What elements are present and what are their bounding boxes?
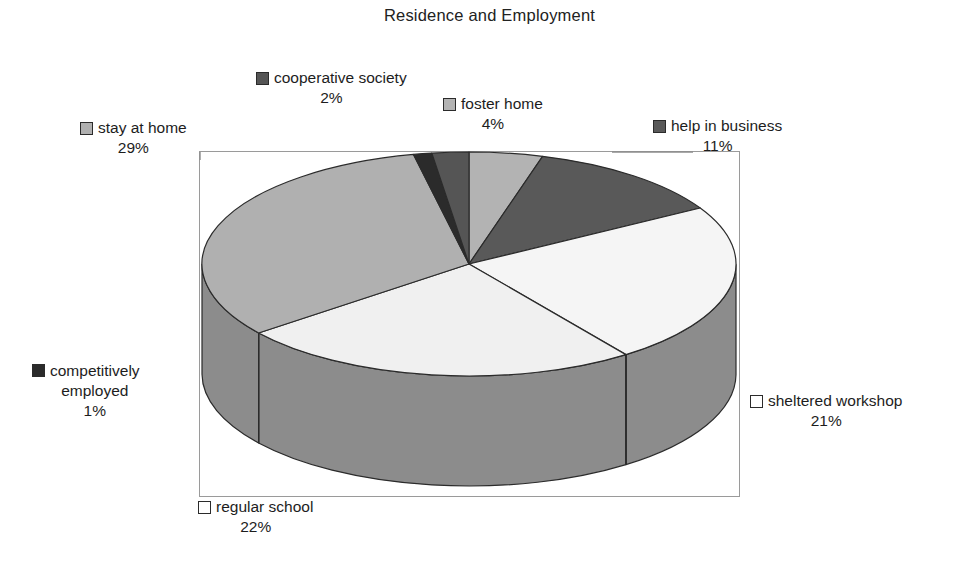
slice-label-text: sheltered workshop [768, 391, 902, 411]
slice-label-regular-school: regular school 22% [198, 497, 313, 537]
slice-label-text: cooperative society [274, 68, 407, 88]
pie-chart-graphic [0, 0, 979, 568]
slice-label-text: foster home [461, 94, 543, 114]
chart-canvas: Residence and Employment cooperative soc… [0, 0, 979, 568]
slice-label-help-in-business: help in business 11% [653, 116, 782, 156]
slice-percent: 1% [84, 401, 106, 421]
slice-label-text-line2: employed [61, 381, 128, 401]
slice-percent: 22% [198, 517, 319, 537]
slice-label-text-line1: competitively [50, 361, 140, 381]
slice-label-text: regular school [216, 497, 313, 517]
swatch-sheltered-workshop [750, 395, 763, 408]
slice-percent: 4% [443, 114, 553, 134]
swatch-help-in-business [653, 120, 666, 133]
swatch-foster-home [443, 98, 456, 111]
slice-label-cooperative-society: cooperative society 2% [256, 68, 407, 108]
slice-label-foster-home: foster home 4% [443, 94, 543, 134]
slice-percent: 29% [80, 138, 221, 158]
swatch-cooperative-society [256, 72, 269, 85]
slice-label-text: stay at home [98, 118, 187, 138]
slice-percent: 11% [653, 136, 842, 156]
swatch-regular-school [198, 501, 211, 514]
pie-top-faces [202, 152, 736, 376]
slice-percent: 21% [750, 411, 916, 431]
slice-label-competitively-employed: competitively employed 1% [32, 361, 140, 421]
slice-label-stay-at-home: stay at home 29% [80, 118, 187, 158]
slice-percent: 2% [256, 88, 447, 108]
swatch-stay-at-home [80, 122, 93, 135]
slice-label-text: help in business [671, 116, 782, 136]
swatch-competitively-employed [32, 364, 45, 377]
slice-label-sheltered-workshop: sheltered workshop 21% [750, 391, 902, 431]
